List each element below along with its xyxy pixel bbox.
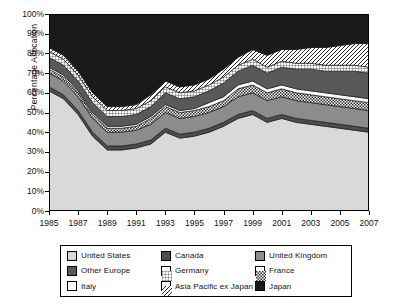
x-tick-mark (78, 211, 79, 215)
x-tick-mark (311, 211, 312, 215)
x-tick-label: 1999 (243, 218, 262, 228)
legend-swatch-icon (255, 281, 265, 291)
x-tick-mark (194, 211, 195, 215)
x-tick-label: 2003 (301, 218, 320, 228)
x-tick-label: 2001 (272, 218, 291, 228)
legend-swatch-icon (161, 281, 171, 291)
x-tick-mark (49, 211, 50, 215)
x-tick-mark (136, 211, 137, 215)
legend-item[interactable]: Japan (253, 281, 347, 291)
x-tick-label: 2007 (360, 218, 379, 228)
legend-label: United Kingdom (269, 251, 327, 260)
legend-item[interactable]: United Kingdom (253, 251, 347, 261)
x-tick-mark (369, 211, 370, 215)
legend-label: United States (81, 251, 130, 260)
x-tick-label: 1993 (156, 218, 175, 228)
plot-area (49, 14, 369, 211)
chart-root: Percentage Allocation 0%10%20%30%40%50%6… (0, 0, 410, 305)
x-tick-label: 1991 (127, 218, 146, 228)
legend-label: Italy (81, 282, 96, 291)
legend-item[interactable]: Asia Pacific ex Japan (159, 281, 253, 291)
legend-item[interactable]: France (253, 266, 347, 276)
legend-item[interactable]: Germany (159, 266, 253, 276)
legend-label: France (269, 266, 295, 275)
legend-swatch-icon (255, 266, 265, 276)
chart-legend: United StatesCanadaUnited KingdomOther E… (60, 245, 352, 297)
x-tick-mark (282, 211, 283, 215)
legend-label: Japan (269, 282, 291, 291)
legend-swatch-icon (67, 251, 77, 261)
x-tick-label: 1997 (214, 218, 233, 228)
x-tick-mark (340, 211, 341, 215)
x-tick-mark (165, 211, 166, 215)
legend-item[interactable]: United States (65, 251, 159, 261)
x-tick-label: 2005 (330, 218, 349, 228)
legend-item[interactable]: Canada (159, 251, 253, 261)
legend-swatch-icon (67, 266, 77, 276)
legend-item[interactable]: Other Europe (65, 266, 159, 276)
legend-swatch-icon (161, 251, 171, 261)
legend-label: Other Europe (81, 266, 130, 275)
x-tick-label: 1989 (98, 218, 117, 228)
x-tick-label: 1987 (69, 218, 88, 228)
x-tick-label: 1985 (40, 218, 59, 228)
legend-label: Germany (175, 266, 209, 275)
x-tick-mark (107, 211, 108, 215)
legend-label: Asia Pacific ex Japan (175, 282, 253, 291)
legend-item[interactable]: Italy (65, 281, 159, 291)
x-tick-mark (224, 211, 225, 215)
x-tick-label: 1995 (185, 218, 204, 228)
legend-swatch-icon (161, 266, 171, 276)
legend-label: Canada (175, 251, 204, 260)
legend-swatch-icon (255, 251, 265, 261)
legend-swatch-icon (67, 281, 77, 291)
x-tick-mark (253, 211, 254, 215)
